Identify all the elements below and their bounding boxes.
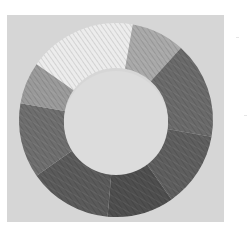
value-wheel-image xyxy=(0,0,252,228)
wheel-center xyxy=(64,71,168,175)
scan-artifact xyxy=(236,37,239,38)
scan-artifact xyxy=(244,115,247,116)
value-wheel xyxy=(0,0,252,228)
